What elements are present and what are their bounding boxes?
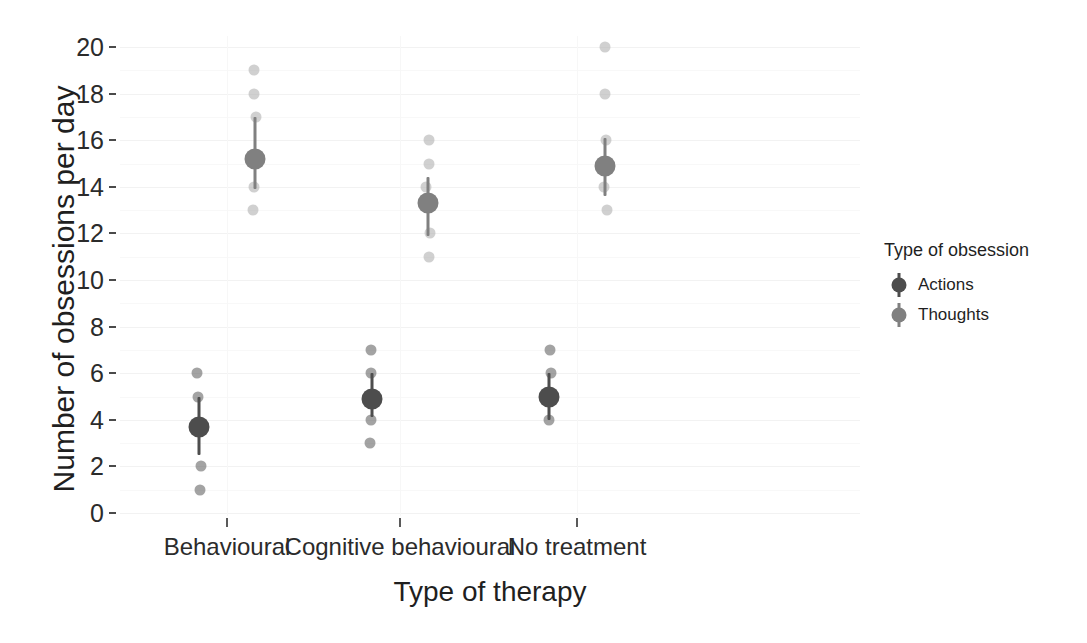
data-point-raw bbox=[195, 484, 206, 495]
legend-key-icon bbox=[884, 300, 914, 330]
gridline-major bbox=[120, 187, 860, 188]
y-axis-tick-mark bbox=[109, 326, 116, 328]
y-axis-tick-label: 8 bbox=[52, 312, 104, 341]
x-axis-tick-label-1: Behavioural bbox=[164, 533, 291, 561]
y-axis-tick-label: 4 bbox=[52, 405, 104, 434]
gridline-minor bbox=[120, 397, 860, 398]
legend-item-thoughts[interactable]: Thoughts bbox=[884, 300, 1084, 330]
data-point-raw bbox=[195, 461, 206, 472]
plot-panel bbox=[120, 36, 860, 516]
mean-point bbox=[418, 193, 439, 214]
legend: Type of obsession ActionsThoughts bbox=[884, 240, 1084, 330]
gridline-major bbox=[120, 327, 860, 328]
legend-key-dot bbox=[892, 278, 907, 293]
x-axis-tick-mark bbox=[399, 518, 401, 527]
gridline-minor bbox=[120, 303, 860, 304]
y-axis-tick-label: 14 bbox=[52, 172, 104, 201]
mean-point bbox=[539, 386, 560, 407]
x-axis-tick-label-3: No treatment bbox=[508, 533, 647, 561]
y-axis-tick-mark bbox=[109, 186, 116, 188]
y-axis-tick-label: 16 bbox=[52, 126, 104, 155]
y-axis-tick-label: 6 bbox=[52, 359, 104, 388]
gridline-minor bbox=[120, 350, 860, 351]
gridline-major bbox=[120, 280, 860, 281]
gridline-major bbox=[120, 513, 860, 514]
y-axis-tick-label: 20 bbox=[52, 33, 104, 62]
gridline-major bbox=[120, 373, 860, 374]
x-axis-tick-label-2: Cognitive behavioural bbox=[285, 533, 516, 561]
gridline-minor bbox=[120, 117, 860, 118]
data-point-raw bbox=[423, 158, 434, 169]
data-point-raw bbox=[600, 88, 611, 99]
data-point-raw bbox=[545, 344, 556, 355]
legend-item-label: Thoughts bbox=[914, 305, 989, 325]
gridline-minor bbox=[120, 70, 860, 71]
y-axis-tick-mark bbox=[109, 232, 116, 234]
legend-title: Type of obsession bbox=[884, 240, 1084, 261]
gridline-major bbox=[120, 140, 860, 141]
y-axis-tick-label: 2 bbox=[52, 452, 104, 481]
x-axis-tick-mark bbox=[226, 518, 228, 527]
x-axis-tick-mark bbox=[576, 518, 578, 527]
gridline-major bbox=[120, 233, 860, 234]
legend-item-label: Actions bbox=[914, 275, 974, 295]
data-point-raw bbox=[249, 65, 260, 76]
mean-point bbox=[362, 388, 383, 409]
gridline-minor bbox=[120, 210, 860, 211]
gridline-major bbox=[120, 94, 860, 95]
legend-item-actions[interactable]: Actions bbox=[884, 270, 1084, 300]
data-point-raw bbox=[424, 251, 435, 262]
data-point-raw bbox=[423, 135, 434, 146]
y-axis-tick-mark bbox=[109, 419, 116, 421]
gridline-major bbox=[120, 420, 860, 421]
data-point-raw bbox=[248, 205, 259, 216]
gridline-major bbox=[120, 47, 860, 48]
y-axis-tick-label: 18 bbox=[52, 79, 104, 108]
gridline-vertical bbox=[577, 36, 578, 516]
mean-point bbox=[189, 416, 210, 437]
gridline-vertical bbox=[400, 36, 401, 516]
data-point-raw bbox=[366, 344, 377, 355]
gridline-major bbox=[120, 466, 860, 467]
chart-figure: Number of obsessions per day 02468101214… bbox=[0, 0, 1087, 643]
data-point-raw bbox=[601, 205, 612, 216]
mean-point bbox=[245, 148, 266, 169]
y-axis-tick-label: 10 bbox=[52, 266, 104, 295]
y-axis-tick-mark bbox=[109, 93, 116, 95]
y-axis-tick-label: 12 bbox=[52, 219, 104, 248]
mean-point bbox=[595, 155, 616, 176]
data-point-raw bbox=[364, 438, 375, 449]
x-axis-title: Type of therapy bbox=[120, 576, 860, 608]
y-axis-tick-mark bbox=[109, 279, 116, 281]
data-point-raw bbox=[599, 42, 610, 53]
y-axis-tick-mark bbox=[109, 139, 116, 141]
legend-key-dot bbox=[892, 308, 907, 323]
legend-items: ActionsThoughts bbox=[884, 270, 1084, 330]
y-axis-tick-mark bbox=[109, 46, 116, 48]
gridline-minor bbox=[120, 164, 860, 165]
legend-key-icon bbox=[884, 270, 914, 300]
y-axis-tick-mark bbox=[109, 512, 116, 514]
y-axis-tick-mark bbox=[109, 372, 116, 374]
y-axis-tick-mark bbox=[109, 465, 116, 467]
gridline-minor bbox=[120, 443, 860, 444]
data-point-raw bbox=[248, 88, 259, 99]
data-point-raw bbox=[191, 368, 202, 379]
gridline-vertical bbox=[227, 36, 228, 516]
gridline-minor bbox=[120, 257, 860, 258]
y-axis-tick-label: 0 bbox=[52, 499, 104, 528]
gridline-minor bbox=[120, 490, 860, 491]
